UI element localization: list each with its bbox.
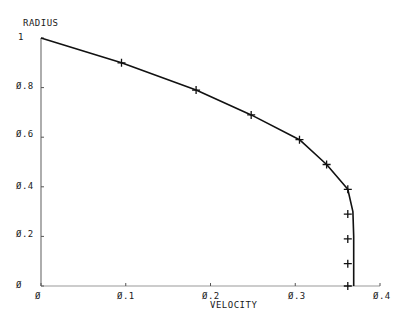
plus-marker-icon — [344, 260, 352, 268]
y-tick-0.2: Ø.2 — [16, 229, 34, 239]
velocity-curve — [41, 38, 354, 286]
plus-marker-icon — [192, 86, 200, 94]
plus-marker-icon — [344, 210, 352, 218]
plus-marker-icon — [344, 235, 352, 243]
y-tick-1: 1 — [18, 32, 24, 42]
plus-marker-icon — [118, 59, 126, 67]
x-axis-label: VELOCITY — [210, 300, 257, 310]
plus-marker-icon — [247, 111, 255, 119]
x-tick-0: Ø — [35, 291, 41, 301]
y-axis-label: RADIUS — [23, 18, 59, 28]
y-tick-0.8: Ø.8 — [16, 81, 34, 91]
y-tick-0.6: Ø.6 — [16, 129, 34, 139]
x-tick-0.1: Ø.1 — [117, 291, 135, 301]
x-tick-0.3: Ø.3 — [288, 291, 306, 301]
x-tick-0.4: Ø.4 — [373, 291, 391, 301]
x-tick-0.2: Ø.2 — [202, 291, 220, 301]
plus-marker-icon — [344, 282, 352, 290]
y-tick-0.4: Ø.4 — [16, 181, 34, 191]
plot-area — [0, 0, 411, 320]
y-tick-0: Ø — [16, 280, 22, 290]
